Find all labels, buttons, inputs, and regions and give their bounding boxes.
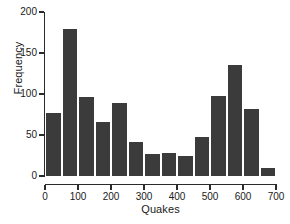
y-tick-mark [39,52,44,53]
histogram-bar [243,109,260,176]
histogram-bar [111,103,128,176]
y-tick-mark [39,93,44,94]
x-tick-mark [176,185,177,190]
y-tick-mark [39,11,44,12]
y-tick-label: 200 [0,7,37,17]
histogram-bar [260,168,277,176]
y-tick-label: 150 [0,48,37,58]
y-tick-mark [39,175,44,176]
histogram-bar [177,156,194,177]
y-tick-label: 0 [0,171,37,181]
x-tick-label: 700 [256,192,290,202]
histogram-figure: Frequency 050100150200 01002003004005006… [0,0,290,224]
histogram-bar [161,153,178,176]
histogram-bar [95,122,112,176]
y-tick-mark [39,134,44,135]
histogram-bars [45,12,276,176]
x-tick-mark [110,185,111,190]
histogram-bar [144,154,161,176]
x-axis-title: Quakes [45,203,276,215]
y-tick-label: 100 [0,89,37,99]
histogram-bar [128,142,145,176]
histogram-bar [62,29,79,176]
histogram-bar [210,96,227,176]
y-tick-label: 50 [0,130,37,140]
x-tick-mark [209,185,210,190]
plot-area [45,12,276,176]
x-tick-mark [143,185,144,190]
histogram-bar [78,97,95,176]
histogram-bar [45,113,62,176]
histogram-bar [227,65,244,176]
histogram-bar [194,137,211,176]
x-tick-mark [242,185,243,190]
y-axis-title: Frequency [12,13,24,123]
x-tick-mark [44,185,45,190]
x-tick-mark [77,185,78,190]
x-tick-mark [275,185,276,190]
